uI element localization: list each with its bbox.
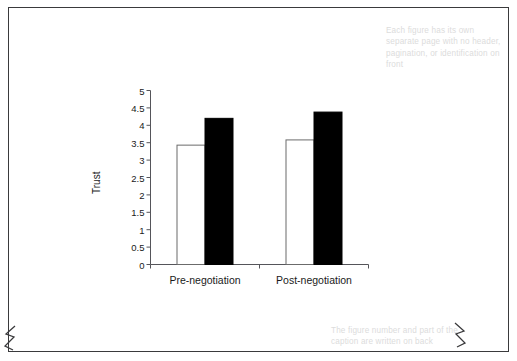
x-axis-category-label: Pre-negotiation xyxy=(169,274,240,286)
chart-canvas xyxy=(0,0,517,361)
bar-chart: Trust 00.511.522.533.544.55 Pre-negotiat… xyxy=(0,0,517,361)
bar-white-bar-1 xyxy=(286,140,314,265)
y-axis-tick-label: 1 xyxy=(107,224,145,235)
y-axis-tick-label: 0.5 xyxy=(107,242,145,253)
y-axis-tick-label: 5 xyxy=(107,85,145,96)
y-axis-tick-label: 0 xyxy=(107,259,145,270)
y-axis-tick-label: 2.5 xyxy=(107,172,145,183)
y-axis-tick-label: 2 xyxy=(107,189,145,200)
y-axis-tick-label: 1.5 xyxy=(107,207,145,218)
x-axis-category-label: Post-negotiation xyxy=(276,274,352,286)
y-axis-tick-label: 4.5 xyxy=(107,102,145,113)
bar-black-bar-1 xyxy=(314,112,342,264)
y-axis-tick-label: 4 xyxy=(107,120,145,131)
bar-black-bar-0 xyxy=(205,118,233,264)
y-axis-title: Trust xyxy=(91,171,102,193)
bar-white-bar-0 xyxy=(177,145,205,264)
y-axis-tick-label: 3 xyxy=(107,155,145,166)
y-axis-tick-label: 3.5 xyxy=(107,137,145,148)
